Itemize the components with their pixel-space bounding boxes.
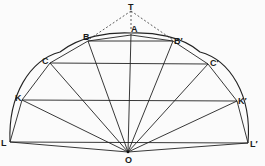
label-B: B — [83, 32, 90, 42]
label-C-prime: C′ — [210, 58, 219, 68]
label-K: K — [15, 93, 22, 103]
chord-LL-prime — [10, 142, 248, 143]
label-K-prime: K′ — [238, 96, 247, 106]
chord-CC-prime — [50, 63, 208, 64]
label-L: L — [1, 138, 7, 148]
label-C: C — [42, 56, 49, 66]
label-L-prime: L′ — [250, 139, 258, 149]
geometry-figure: T A B B′ C C′ K K′ L L′ O — [0, 0, 265, 166]
diagram-canvas: T A B B′ C C′ K K′ L L′ O — [0, 0, 265, 166]
label-A: A — [131, 24, 138, 34]
label-O: O — [125, 155, 132, 165]
center-point-O — [127, 151, 130, 154]
outer-arc — [10, 33, 249, 143]
label-T: T — [128, 2, 134, 12]
label-B-prime: B′ — [174, 36, 183, 46]
radii — [10, 34, 248, 152]
